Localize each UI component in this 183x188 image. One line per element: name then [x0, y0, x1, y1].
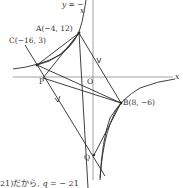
label-point-c: C(−16, 3)	[9, 37, 46, 45]
line-bq	[94, 103, 121, 155]
arrow-icon	[97, 58, 101, 63]
caption: 21)だから, q = − 21	[0, 177, 79, 188]
hyperbola-branch-upper-left	[13, 0, 86, 69]
label-point-b: B(8, −6)	[123, 99, 155, 107]
line-ap	[43, 33, 79, 78]
label-point-q: Q	[84, 154, 90, 162]
curve-label-den: x	[80, 7, 84, 15]
line-aq	[79, 33, 88, 188]
line-ab	[79, 33, 121, 103]
label-origin: O	[87, 78, 93, 86]
point-a	[78, 32, 81, 35]
curve-label: y = − x	[62, 1, 84, 9]
line-cb	[37, 65, 121, 103]
caption-var: q	[42, 179, 47, 188]
curve-bq	[100, 103, 121, 178]
point-b	[120, 102, 123, 105]
point-q	[93, 154, 95, 156]
caption-suffix: = − 21	[50, 179, 79, 188]
hyperbola-branch-lower-right	[100, 79, 175, 180]
label-point-p: P	[39, 78, 44, 86]
point-c	[36, 64, 39, 67]
caption-prefix: 21)だから,	[0, 179, 40, 188]
label-point-a: A(−4, 12)	[36, 25, 73, 33]
coordinate-diagram	[0, 0, 183, 188]
label-x-axis: x	[175, 73, 179, 81]
